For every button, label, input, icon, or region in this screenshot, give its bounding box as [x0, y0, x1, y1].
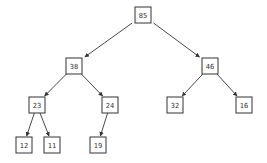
edge-arrow [154, 23, 200, 57]
edge-arrow [182, 74, 203, 96]
node-label: 23 [33, 102, 41, 110]
edge-arrow [85, 23, 132, 57]
edge-arrow [81, 74, 102, 96]
tree-node: 46 [202, 58, 218, 74]
node-label: 24 [106, 102, 114, 110]
tree-node: 11 [44, 137, 60, 153]
tree-node: 38 [66, 58, 82, 74]
edge-arrow [27, 113, 35, 136]
nodes-layer: 85384623243216121119 [16, 7, 252, 153]
node-label: 11 [48, 142, 56, 150]
tree-node: 24 [102, 97, 118, 113]
node-label: 12 [20, 142, 28, 150]
tree-node: 16 [236, 97, 252, 113]
tree-node: 23 [29, 97, 45, 113]
tree-node: 32 [167, 97, 183, 113]
node-label: 19 [94, 142, 102, 150]
edge-arrow [45, 74, 67, 96]
node-label: 16 [240, 102, 248, 110]
tree-node: 85 [135, 7, 151, 23]
tree-diagram: 85384623243216121119 [0, 0, 267, 163]
node-label: 85 [139, 12, 147, 20]
node-label: 46 [206, 63, 214, 71]
tree-node: 12 [16, 137, 32, 153]
node-label: 32 [171, 102, 179, 110]
edge-arrow [40, 113, 49, 136]
edge-arrow [217, 74, 237, 96]
node-label: 38 [70, 63, 78, 71]
tree-node: 19 [90, 137, 106, 153]
edge-arrow [100, 113, 107, 136]
edges-layer [27, 23, 237, 136]
